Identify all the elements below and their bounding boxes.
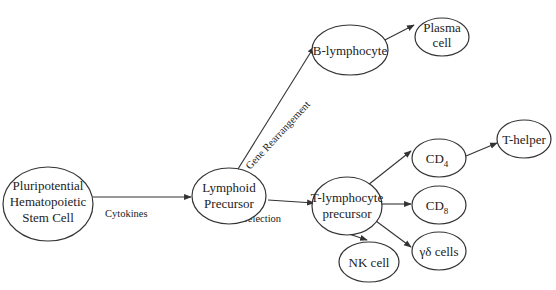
node-b-lymphocyte-label: B-lymphocyte xyxy=(313,43,388,58)
node-plasma-line2: cell xyxy=(433,35,452,50)
node-plasma-line1: Plasma xyxy=(423,20,461,35)
node-stem-cell: Pluripotential Hematopoietic Stem Cell xyxy=(3,167,93,241)
edge-cd4-to-thelper xyxy=(466,143,497,156)
edge-b-to-plasma xyxy=(381,25,414,42)
node-t-helper-label: T-helper xyxy=(502,132,546,147)
node-cd4: CD4 xyxy=(412,139,466,177)
node-nk-label: NK cell xyxy=(349,255,390,270)
node-t-prec-line2: precursor xyxy=(322,206,372,221)
node-stem-cell-line2: Hematopoietic xyxy=(10,194,87,209)
node-stem-cell-line1: Pluripotential xyxy=(13,178,84,193)
node-stem-cell-line3: Stem Cell xyxy=(22,210,74,225)
node-t-helper: T-helper xyxy=(497,120,551,158)
edge-lymphoid-to-t xyxy=(268,200,314,203)
node-gd-label: γδ cells xyxy=(419,244,459,259)
edge-label-cytokines: Cytokines xyxy=(105,208,148,219)
edge-t-to-cd4 xyxy=(368,151,411,185)
node-b-lymphocyte: B-lymphocyte xyxy=(312,25,388,75)
node-lymphoid-line1: Lymphoid xyxy=(202,180,256,195)
node-gamma-delta-cells: γδ cells xyxy=(412,232,466,270)
node-t-prec-line1: T-lymphocyte xyxy=(311,190,384,205)
node-cd8: CD8 xyxy=(412,186,466,224)
node-lymphoid-line2: Precursor xyxy=(204,196,254,211)
node-nk-cell: NK cell xyxy=(339,242,399,282)
edge-label-gene-rearrangement: Gene Rearrangement xyxy=(243,99,312,172)
lymphocyte-lineage-diagram: Cytokines Gene Rearrangement Selection P… xyxy=(0,0,556,290)
node-lymphoid-precursor: Lymphoid Precursor xyxy=(192,168,266,224)
node-t-lymphocyte-precursor: T-lymphocyte precursor xyxy=(311,177,384,235)
node-plasma-cell: Plasma cell xyxy=(415,18,469,56)
